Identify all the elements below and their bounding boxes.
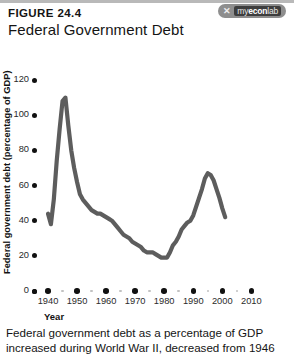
y-axis-tick-dot	[32, 148, 37, 153]
figure-caption: Federal government debt as a percentage …	[6, 326, 290, 355]
logo-lab-text: lab	[267, 7, 278, 16]
x-axis-tick-dot	[161, 288, 167, 294]
x-axis-tick-dot	[220, 288, 226, 294]
x-axis-tick-label: 1980	[149, 296, 179, 306]
x-axis-tick-label: 1990	[178, 296, 208, 306]
logo-my-text: my	[237, 7, 248, 16]
x-axis-tick-label: 1940	[33, 296, 63, 306]
x-axis-minor-tick-dot	[90, 290, 93, 293]
y-axis-tick-label: 100	[5, 109, 29, 119]
y-axis-tick-dot	[32, 183, 37, 188]
x-axis-tick-label: 2000	[207, 296, 237, 306]
debt-series-line	[48, 98, 225, 258]
x-axis-tick-dot	[45, 288, 51, 294]
figure-number: FIGURE 24.4	[8, 7, 81, 19]
logo-econ-text: econ	[248, 7, 267, 16]
origin-dot	[32, 289, 37, 294]
debt-line-chart	[0, 55, 294, 305]
page-title: Federal Government Debt	[8, 21, 184, 38]
caption-line-2: increased during World War II, decreased…	[6, 341, 290, 356]
chart-plot-area	[0, 55, 294, 305]
x-axis-tick-dot	[249, 288, 255, 294]
y-axis-tick-label: 120	[5, 74, 29, 84]
y-axis-tick-label: 60	[5, 180, 29, 190]
x-axis-tick-label: 2010	[236, 296, 266, 306]
x-axis-tick-dot	[103, 288, 109, 294]
x-axis-tick-dot	[132, 288, 138, 294]
x-axis-tick-dot	[191, 288, 197, 294]
myeconlab-mark-icon: ✕	[223, 7, 231, 16]
x-axis-tick-dot	[74, 288, 80, 294]
y-axis-tick-dot	[32, 113, 37, 118]
y-axis-tick-label: 0	[5, 285, 29, 295]
top-divider	[0, 0, 294, 3]
y-axis-tick-dot	[32, 78, 37, 83]
figure-container: FIGURE 24.4 Federal Government Debt ✕ my…	[0, 0, 294, 357]
x-axis-tick-label: 1970	[120, 296, 150, 306]
y-axis-tick-label: 40	[5, 215, 29, 225]
caption-line-1: Federal government debt as a percentage …	[6, 326, 290, 341]
x-axis-tick-label: 1950	[62, 296, 92, 306]
myeconlab-logo[interactable]: ✕ myeconlab	[218, 4, 286, 18]
y-axis-tick-label: 20	[5, 250, 29, 260]
x-axis-tick-label: 1960	[91, 296, 121, 306]
x-axis-label: Year	[44, 311, 64, 322]
x-axis-minor-tick-dot	[61, 290, 64, 293]
y-axis-tick-label: 80	[5, 144, 29, 154]
myeconlab-wordmark: myeconlab	[234, 6, 281, 17]
